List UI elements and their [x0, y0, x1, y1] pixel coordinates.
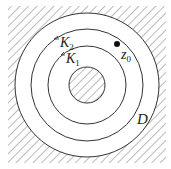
annulus-diagram: K2 K1 z0 D [0, 0, 171, 169]
diagram-canvas: K2 K1 z0 D [0, 0, 171, 169]
d-label: D [136, 111, 148, 127]
z0-point [114, 41, 120, 47]
inner-hatched-disk [69, 67, 105, 103]
